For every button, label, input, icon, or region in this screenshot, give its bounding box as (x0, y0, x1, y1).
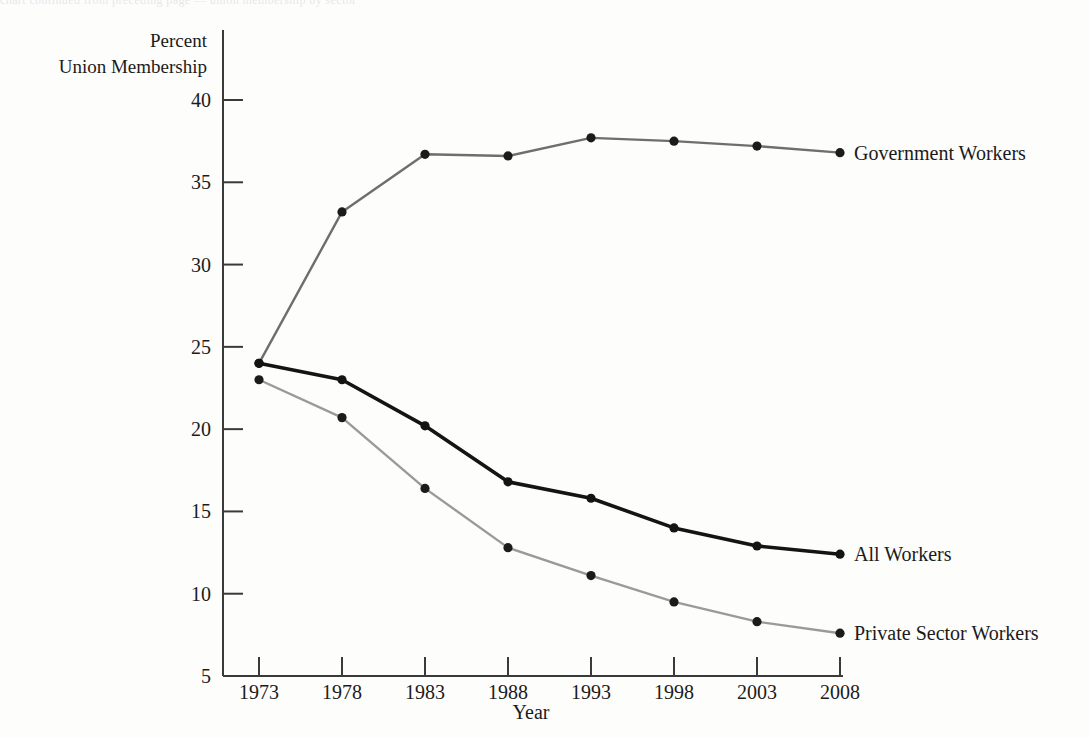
x-tick-label: 1988 (488, 681, 528, 703)
series-group (254, 133, 844, 638)
data-point-marker[interactable] (669, 597, 678, 606)
y-tick-label: 20 (191, 418, 211, 440)
y-tick-label: 10 (191, 583, 211, 605)
series-line (259, 363, 840, 554)
data-point-marker[interactable] (752, 617, 761, 626)
data-point-marker[interactable] (503, 543, 512, 552)
data-point-marker[interactable] (420, 150, 429, 159)
data-point-marker[interactable] (752, 141, 761, 150)
data-point-marker[interactable] (669, 523, 678, 532)
data-point-marker[interactable] (835, 550, 844, 559)
series-line (259, 138, 840, 363)
series-label: Government Workers (854, 142, 1026, 164)
data-point-marker[interactable] (586, 494, 595, 503)
y-axis-label-line1: Percent (150, 30, 208, 51)
x-tick-label: 1983 (405, 681, 445, 703)
data-point-marker[interactable] (669, 137, 678, 146)
y-tick-label: 25 (191, 336, 211, 358)
x-tick-label: 1978 (322, 681, 362, 703)
data-point-marker[interactable] (586, 133, 595, 142)
data-point-marker[interactable] (503, 151, 512, 160)
x-tick-label: 1973 (239, 681, 279, 703)
y-tick-label: 30 (191, 254, 211, 276)
x-tick-label: 2003 (737, 681, 777, 703)
series-label: All Workers (854, 543, 952, 565)
y-axis-label-line2: Union Membership (59, 56, 207, 77)
data-point-marker[interactable] (254, 359, 263, 368)
chart-figure: chart continued from preceding page — un… (0, 0, 1090, 738)
data-point-marker[interactable] (835, 148, 844, 157)
y-tick-label: 40 (191, 89, 211, 111)
series-label: Private Sector Workers (854, 622, 1039, 644)
data-point-marker[interactable] (752, 541, 761, 550)
data-point-marker[interactable] (420, 421, 429, 430)
x-tick-label: 2008 (820, 681, 860, 703)
data-point-marker[interactable] (835, 629, 844, 638)
y-tick-label: 5 (201, 665, 211, 687)
x-tick-label: 1998 (654, 681, 694, 703)
x-axis-title: Year (513, 701, 550, 723)
y-tick-label: 35 (191, 171, 211, 193)
y-tick-label: 15 (191, 500, 211, 522)
data-point-marker[interactable] (337, 413, 346, 422)
x-tick-label: 1993 (571, 681, 611, 703)
data-point-marker[interactable] (586, 571, 595, 580)
series-labels-group: Government WorkersAll WorkersPrivate Sec… (854, 142, 1039, 645)
data-point-marker[interactable] (337, 375, 346, 384)
data-point-marker[interactable] (254, 375, 263, 384)
data-point-marker[interactable] (420, 484, 429, 493)
x-axis-ticks: 19731978198319881993199820032008 (239, 657, 860, 703)
y-axis-ticks: 403530252015105 (191, 89, 243, 687)
data-point-marker[interactable] (337, 207, 346, 216)
data-point-marker[interactable] (503, 477, 512, 486)
union-membership-line-chart: Percent Union Membership 403530252015105… (0, 0, 1090, 738)
